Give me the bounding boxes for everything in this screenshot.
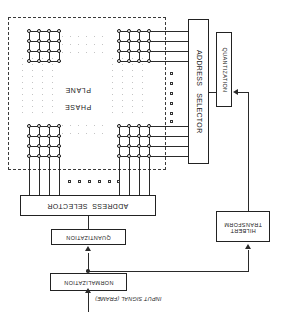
quantization-vertical-label: QUANTIZATION (221, 47, 227, 92)
normalization-label: NORMALIZATION (64, 279, 113, 285)
arrow-into-quantization-vertical (233, 89, 238, 95)
link-junction-to-hilbert (248, 250, 249, 271)
quantization-vertical-block[interactable]: QUANTIZATION (216, 32, 232, 107)
phase-plane-label: PHASE PLANE (48, 78, 118, 119)
link-addrh-to-quanth (88, 216, 89, 229)
arrow-into-hilbert (245, 244, 251, 249)
arrow-input-signal (85, 288, 91, 293)
hilbert-transform-label-line1: HILBERT (230, 227, 256, 233)
address-selector-horizontal-block[interactable]: ADDRESS SELECTOR (20, 195, 156, 216)
hilbert-transform-block[interactable]: HILBERT TRANSFORM (216, 211, 270, 242)
address-selector-vertical-label: ADDRESS SELECTOR (195, 50, 203, 134)
quantization-horizontal-block[interactable]: QUANTIZATION (51, 229, 126, 245)
hilbert-transform-label-line2: TRANSFORM (224, 222, 262, 228)
link-addr-to-quant-v (209, 92, 216, 93)
address-selector-horizontal-label: ADDRESS SELECTOR (47, 202, 128, 210)
quantization-horizontal-label: QUANTIZATION (66, 234, 111, 240)
input-signal-label: INPUT SIGNAL (FRAME) (95, 296, 162, 302)
diagram-canvas: PHASE PLANE (0, 0, 286, 318)
input-signal-stem (88, 291, 89, 312)
junction-rail (88, 271, 249, 272)
link-hilbert-to-quantv (248, 92, 249, 211)
arrow-into-quantization-horizontal (85, 246, 91, 251)
phase-plane-label-line2: PLANE (65, 88, 91, 95)
hilbert-transform-label: HILBERT TRANSFORM (224, 221, 262, 233)
phase-plane-label-line1: PHASE (65, 104, 92, 111)
address-selector-vertical-block[interactable]: ADDRESS SELECTOR (188, 19, 209, 164)
